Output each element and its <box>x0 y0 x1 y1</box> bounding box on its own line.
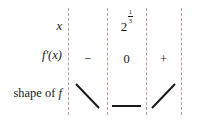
shape-of-f-segments <box>0 0 199 123</box>
segment-decreasing <box>76 84 99 108</box>
derivative-sign-chart: x f′(x) shape of f 213 − 0 + <box>0 0 199 123</box>
segment-increasing <box>152 84 175 108</box>
